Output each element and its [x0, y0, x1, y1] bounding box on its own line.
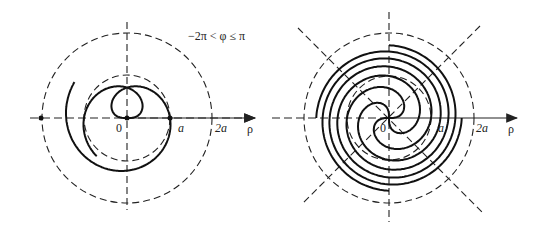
spiral-diagram: −2π < φ ≤ π 0 a 2a ρ 0 a 2a ρ: [0, 0, 543, 233]
left-origin-label: 0: [116, 121, 122, 135]
right-rho-label: ρ: [508, 122, 514, 136]
right-2a-label: 2a: [476, 121, 488, 135]
left-rho-label: ρ: [247, 122, 253, 136]
left-2a-label: 2a: [215, 121, 227, 135]
left-figure: −2π < φ ≤ π 0 a 2a ρ: [30, 22, 255, 210]
right-spiral-curves: [316, 45, 461, 190]
right-origin-label: 0: [380, 121, 386, 135]
left-point-a: [168, 116, 173, 121]
right-figure: 0 a 2a ρ: [272, 12, 517, 222]
right-a-label: a: [438, 121, 444, 135]
left-a-label: a: [178, 121, 184, 135]
left-point-origin: [125, 116, 130, 121]
left-point-neg: [39, 116, 44, 121]
left-range-label: −2π < φ ≤ π: [188, 29, 245, 43]
